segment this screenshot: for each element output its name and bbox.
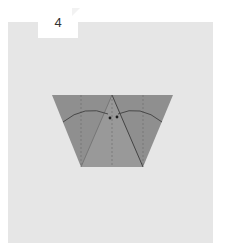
dot-right	[116, 116, 119, 119]
origami-diagram	[0, 0, 225, 249]
dot-left	[109, 117, 112, 120]
